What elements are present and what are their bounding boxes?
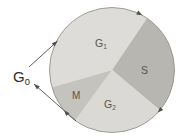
sector-label-m: M [72,90,80,101]
cell-cycle-diagram: G1SG2MG0 [0,0,191,140]
g0-label: G0 [13,68,30,87]
figure-canvas: G1SG2MG0 [0,0,191,140]
sector-label-s: S [141,64,148,76]
